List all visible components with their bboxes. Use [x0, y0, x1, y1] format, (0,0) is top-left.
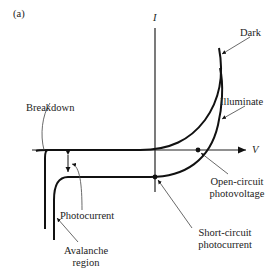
short-circuit-label: Short-circuit photocurrent [190, 227, 260, 251]
breakdown-label: Breakdown [26, 102, 74, 114]
short-circuit-leader [158, 180, 192, 228]
short-circuit-point [153, 175, 158, 180]
avalanche-region-label: Avalanche region [56, 245, 116, 269]
photocurrent-leader [72, 164, 82, 210]
open-circuit-leader [201, 153, 228, 174]
photocurrent-label: Photocurrent [60, 210, 114, 222]
iv-characteristic-diagram: (a) I V Dark Illuminate Breakdown Photoc… [0, 0, 276, 280]
dark-leader [222, 37, 250, 54]
panel-label: (a) [13, 8, 25, 20]
y-axis-label: I [153, 12, 157, 24]
open-circuit-point [196, 148, 201, 153]
dark-label: Dark [240, 27, 261, 39]
open-circuit-label: Open-circuit photovoltage [202, 176, 272, 200]
illuminate-label: Illuminate [220, 96, 263, 108]
dark-curve [36, 48, 221, 151]
x-axis-label: V [252, 144, 258, 156]
dark-breakdown-branch [45, 150, 48, 229]
